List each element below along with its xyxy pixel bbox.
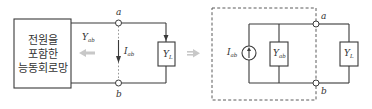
transform-arrow — [187, 49, 200, 58]
terminal-b-label: b — [116, 89, 122, 99]
short-current-arrowhead — [116, 56, 121, 63]
source-label: Iab — [226, 47, 238, 58]
terminal-a-node — [116, 20, 122, 26]
network-label-line-2: 포함한 — [28, 48, 58, 61]
terminal-a-label: a — [116, 7, 121, 17]
network-label-line-3: 능동회로망 — [18, 62, 68, 75]
admittance-label: Yab — [82, 32, 95, 43]
left-circuit: 전원을 포함한 능동회로망 YL Iab Yab a b — [14, 7, 175, 99]
terminal-b-node — [116, 80, 122, 86]
norton-equivalent-diagram: 전원을 포함한 능동회로망 YL Iab Yab a b — [0, 0, 372, 109]
load-current-arrowhead — [164, 35, 169, 41]
network-label-line-1: 전원을 — [28, 34, 58, 47]
eq-terminal-b-label: b — [321, 86, 327, 96]
look-in-arrow-head — [79, 49, 86, 57]
look-in-arrow-shaft — [85, 52, 95, 55]
eq-terminal-b-node — [313, 80, 319, 86]
right-circuit: Iab Yab YL a b — [212, 8, 358, 100]
eq-terminal-a-label: a — [321, 11, 326, 21]
short-current-label: Iab — [123, 46, 135, 57]
eq-terminal-a-node — [313, 21, 319, 27]
